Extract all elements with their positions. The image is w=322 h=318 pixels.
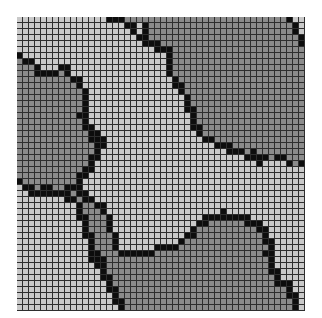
light-cell: [59, 203, 64, 208]
light-cell: [179, 137, 184, 142]
dark-cell: [41, 167, 46, 172]
light-cell: [113, 149, 118, 154]
dark-cell: [215, 77, 220, 82]
light-cell: [41, 197, 46, 202]
dark-cell: [275, 149, 280, 154]
boundary-cell: [77, 215, 82, 220]
dark-cell: [17, 89, 22, 94]
light-cell: [299, 191, 304, 196]
light-cell: [185, 131, 190, 136]
light-cell: [107, 173, 112, 178]
light-cell: [155, 95, 160, 100]
boundary-cell: [281, 281, 286, 286]
boundary-cell: [95, 137, 100, 142]
light-cell: [143, 167, 148, 172]
light-cell: [35, 41, 40, 46]
dark-cell: [101, 239, 106, 244]
light-cell: [233, 173, 238, 178]
dark-cell: [23, 71, 28, 76]
light-cell: [83, 257, 88, 262]
light-cell: [113, 107, 118, 112]
dark-cell: [251, 23, 256, 28]
dark-cell: [53, 119, 58, 124]
dark-cell: [221, 35, 226, 40]
dark-cell: [95, 233, 100, 238]
dark-cell: [191, 29, 196, 34]
light-cell: [41, 29, 46, 34]
dark-cell: [257, 77, 262, 82]
light-cell: [119, 239, 124, 244]
light-cell: [101, 17, 106, 22]
light-cell: [101, 173, 106, 178]
dark-cell: [251, 245, 256, 250]
light-cell: [65, 233, 70, 238]
dark-cell: [71, 143, 76, 148]
light-cell: [287, 215, 292, 220]
dark-cell: [239, 95, 244, 100]
light-cell: [257, 185, 262, 190]
light-cell: [95, 83, 100, 88]
dark-cell: [161, 29, 166, 34]
boundary-cell: [77, 185, 82, 190]
light-cell: [41, 245, 46, 250]
boundary-cell: [89, 161, 94, 166]
dark-cell: [275, 299, 280, 304]
dark-cell: [251, 257, 256, 262]
dark-cell: [269, 137, 274, 142]
light-cell: [227, 203, 232, 208]
dark-cell: [77, 95, 82, 100]
light-cell: [161, 131, 166, 136]
dark-cell: [149, 23, 154, 28]
boundary-cell: [89, 239, 94, 244]
dark-cell: [251, 299, 256, 304]
boundary-cell: [191, 113, 196, 118]
dark-cell: [77, 131, 82, 136]
light-cell: [251, 209, 256, 214]
dark-cell: [17, 107, 22, 112]
dark-cell: [257, 257, 262, 262]
light-cell: [65, 17, 70, 22]
dark-cell: [89, 149, 94, 154]
light-cell: [215, 155, 220, 160]
dark-cell: [281, 143, 286, 148]
light-cell: [71, 275, 76, 280]
boundary-cell: [35, 191, 40, 196]
light-cell: [173, 143, 178, 148]
dark-cell: [299, 119, 304, 124]
dark-cell: [17, 71, 22, 76]
dark-cell: [137, 263, 142, 268]
dark-cell: [233, 269, 238, 274]
light-cell: [245, 209, 250, 214]
light-cell: [167, 239, 172, 244]
light-cell: [281, 263, 286, 268]
light-cell: [131, 173, 136, 178]
boundary-cell: [263, 233, 268, 238]
dark-cell: [59, 149, 64, 154]
dark-cell: [23, 95, 28, 100]
light-cell: [227, 161, 232, 166]
light-cell: [65, 41, 70, 46]
light-cell: [179, 227, 184, 232]
dark-cell: [35, 179, 40, 184]
dark-cell: [233, 251, 238, 256]
light-cell: [29, 299, 34, 304]
boundary-cell: [143, 35, 148, 40]
dark-cell: [227, 107, 232, 112]
light-cell: [23, 41, 28, 46]
light-cell: [257, 179, 262, 184]
boundary-cell: [167, 71, 172, 76]
dark-cell: [251, 83, 256, 88]
light-cell: [125, 179, 130, 184]
light-cell: [101, 287, 106, 292]
light-cell: [287, 191, 292, 196]
light-cell: [101, 161, 106, 166]
light-cell: [143, 47, 148, 52]
dark-cell: [281, 149, 286, 154]
dark-cell: [77, 137, 82, 142]
light-cell: [125, 35, 130, 40]
light-cell: [167, 161, 172, 166]
light-cell: [245, 173, 250, 178]
dark-cell: [23, 137, 28, 142]
dark-cell: [245, 47, 250, 52]
light-cell: [215, 203, 220, 208]
